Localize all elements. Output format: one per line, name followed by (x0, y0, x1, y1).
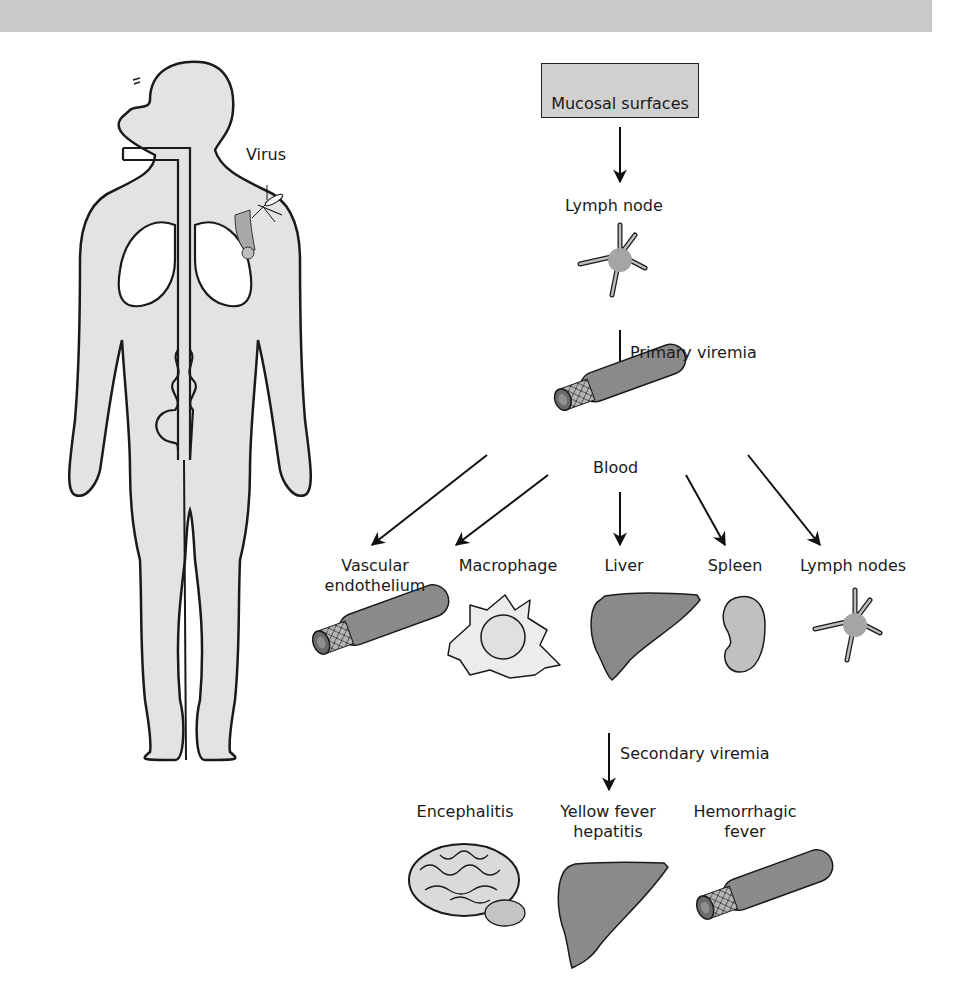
target-lymph-nodes-label: Lymph nodes (788, 556, 918, 576)
lymph-node-icon (580, 225, 645, 295)
secondary-viremia-label: Secondary viremia (620, 744, 770, 764)
disease-hemorrhagic-label: Hemorrhagic fever (685, 802, 805, 842)
target-liver-label: Liver (594, 556, 654, 576)
spleen-icon (723, 596, 765, 672)
disease-encephalitis-label: Encephalitis (410, 802, 520, 822)
target-macrophage-label: Macrophage (448, 556, 568, 576)
human-body-icon (69, 62, 311, 760)
liver-icon (591, 593, 700, 680)
blood-label: Blood (593, 458, 638, 478)
mucosal-surfaces-label: Mucosal surfaces (542, 94, 698, 114)
virus-label: Virus (246, 145, 286, 165)
disease-yellow-fever-label: Yellow fever hepatitis (548, 802, 668, 842)
lymph-nodes-icon (815, 590, 880, 660)
primary-viremia-label: Primary viremia (630, 343, 757, 363)
target-spleen-label: Spleen (700, 556, 770, 576)
mucosal-surfaces-box: Mucosal surfaces (541, 63, 699, 118)
brain-icon (409, 844, 525, 926)
diagram-canvas (0, 0, 968, 983)
lymph-node-label: Lymph node (565, 196, 663, 216)
hemorrhagic-vessel-icon (692, 845, 837, 924)
target-vascular-label: Vascular endothelium (320, 556, 430, 596)
yellow-fever-liver-icon (558, 862, 668, 968)
macrophage-icon (448, 595, 560, 678)
